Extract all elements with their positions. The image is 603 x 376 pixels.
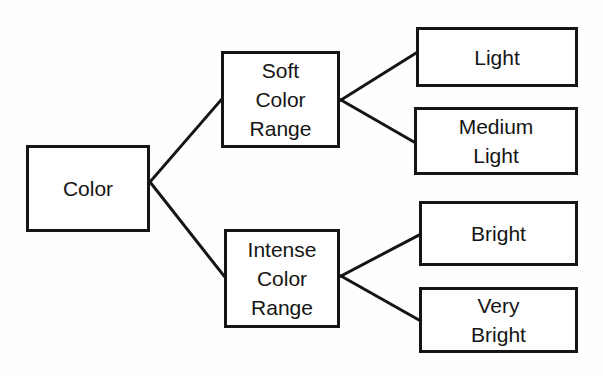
edge-color-to-soft-color-range (150, 100, 221, 182)
edge-color-to-intense-color-range (150, 182, 224, 276)
edge-intense-color-range-to-very-bright (341, 276, 419, 320)
node-soft-color-range[interactable]: Soft Color Range (221, 51, 340, 148)
edge-soft-color-range-to-light (341, 53, 416, 100)
node-bright-label: Bright (467, 219, 530, 248)
node-medium-light-label: Medium Light (455, 112, 538, 170)
edge-intense-color-range-to-bright (341, 235, 419, 276)
edge-soft-color-range-to-medium-light (341, 100, 414, 142)
node-intense-color-range-label: Intense Color Range (244, 235, 321, 322)
node-light[interactable]: Light (416, 27, 578, 87)
node-intense-color-range[interactable]: Intense Color Range (224, 229, 340, 328)
node-medium-light[interactable]: Medium Light (414, 107, 578, 175)
node-color[interactable]: Color (26, 145, 150, 232)
diagram-canvas: Color Soft Color Range Intense Color Ran… (0, 0, 603, 376)
node-light-label: Light (470, 43, 524, 72)
node-soft-color-range-label: Soft Color Range (246, 56, 316, 143)
node-very-bright-label: Very Bright (467, 291, 530, 349)
node-color-label: Color (59, 174, 117, 203)
node-bright[interactable]: Bright (419, 201, 578, 266)
node-very-bright[interactable]: Very Bright (419, 287, 578, 353)
